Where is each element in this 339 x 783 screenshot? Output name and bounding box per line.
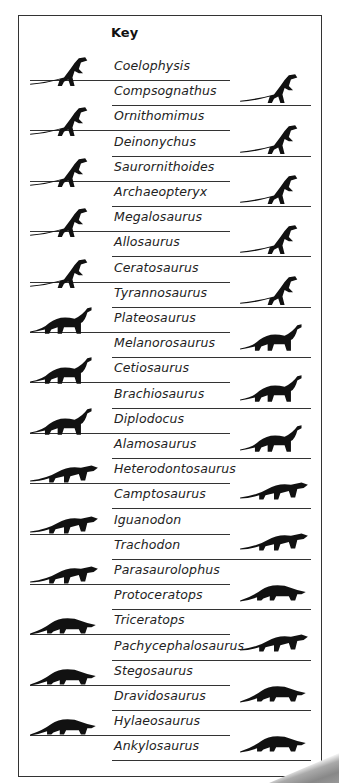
entry-divider (112, 760, 311, 761)
entry-label-tyrannosaurus: Tyrannosaurus (114, 285, 207, 300)
entry-divider (112, 156, 311, 157)
cetiosaurus-silhouette-icon (28, 356, 100, 388)
entry-divider (112, 609, 311, 610)
entry-divider (112, 256, 311, 257)
megalosaurus-silhouette-icon (28, 205, 100, 237)
entry-label-iguanodon: Iguanodon (114, 512, 181, 527)
entry-divider (112, 559, 311, 560)
trachodon-silhouette-icon (238, 525, 310, 557)
entry-label-hylaeosaurus: Hylaeosaurus (114, 713, 200, 728)
entry-divider (112, 357, 311, 358)
entry-label-megalosaurus: Megalosaurus (114, 209, 202, 224)
deinonychus-silhouette-icon (238, 122, 310, 154)
coelophysis-silhouette-icon (28, 54, 100, 86)
triceratops-silhouette-icon (28, 608, 100, 640)
archaeopteryx-silhouette-icon (238, 172, 310, 204)
tyrannosaurus-silhouette-icon (238, 273, 310, 305)
entry-divider (112, 458, 311, 459)
stegosaurus-silhouette-icon (28, 659, 100, 691)
entry-divider (112, 710, 311, 711)
alamosaurus-silhouette-icon (238, 424, 310, 456)
melanorosaurus-silhouette-icon (238, 323, 310, 355)
entry-label-dravidosaurus: Dravidosaurus (114, 688, 206, 703)
diplodocus-silhouette-icon (28, 407, 100, 439)
iguanodon-silhouette-icon (28, 508, 100, 540)
saurornithoides-silhouette-icon (28, 155, 100, 187)
entry-label-coelophysis: Coelophysis (114, 58, 190, 73)
entry-label-ceratosaurus: Ceratosaurus (114, 260, 199, 275)
entry-label-triceratops: Triceratops (114, 612, 185, 627)
key-title: Key (111, 25, 138, 40)
heterodontosaurus-silhouette-icon (28, 457, 100, 489)
entry-label-saurornithoides: Saurornithoides (114, 159, 214, 174)
brachiosaurus-silhouette-icon (238, 374, 310, 406)
entry-label-deinonychus: Deinonychus (114, 134, 196, 149)
ornithomimus-silhouette-icon (28, 104, 100, 136)
entry-divider (112, 307, 311, 308)
entry-label-brachiosaurus: Brachiosaurus (114, 386, 204, 401)
entry-label-compsognathus: Compsognathus (114, 83, 217, 98)
entry-divider (112, 660, 311, 661)
pachycephalosaurus-silhouette-icon (238, 626, 310, 658)
entry-label-parasaurolophus: Parasaurolophus (114, 562, 220, 577)
entry-label-melanorosaurus: Melanorosaurus (114, 335, 215, 350)
allosaurus-silhouette-icon (238, 222, 310, 254)
plateosaurus-silhouette-icon (28, 306, 100, 338)
entry-divider (112, 105, 311, 106)
compsognathus-silhouette-icon (238, 71, 310, 103)
entry-label-stegosaurus: Stegosaurus (114, 663, 193, 678)
entry-label-trachodon: Trachodon (114, 537, 180, 552)
entry-label-cetiosaurus: Cetiosaurus (114, 360, 189, 375)
entry-label-ankylosaurus: Ankylosaurus (114, 738, 199, 753)
protoceratops-silhouette-icon (238, 575, 310, 607)
camptosaurus-silhouette-icon (238, 474, 310, 506)
dravidosaurus-silhouette-icon (238, 676, 310, 708)
entry-label-protoceratops: Protoceratops (114, 587, 203, 602)
entry-label-diplodocus: Diplodocus (114, 411, 184, 426)
parasaurolophus-silhouette-icon (28, 558, 100, 590)
entry-label-pachycephalosaurus: Pachycephalosaurus (114, 638, 244, 653)
entry-label-camptosaurus: Camptosaurus (114, 486, 206, 501)
entry-label-heterodontosaurus: Heterodontosaurus (114, 461, 236, 476)
entry-label-allosaurus: Allosaurus (114, 234, 180, 249)
entry-divider (112, 508, 311, 509)
ceratosaurus-silhouette-icon (28, 256, 100, 288)
entry-label-archaeopteryx: Archaeopteryx (114, 184, 207, 199)
ankylosaurus-silhouette-icon (238, 726, 310, 758)
entry-divider (112, 408, 311, 409)
entry-divider (112, 206, 311, 207)
entry-label-ornithomimus: Ornithomimus (114, 108, 204, 123)
hylaeosaurus-silhouette-icon (28, 709, 100, 741)
entry-label-alamosaurus: Alamosaurus (114, 436, 196, 451)
entry-label-plateosaurus: Plateosaurus (114, 310, 196, 325)
